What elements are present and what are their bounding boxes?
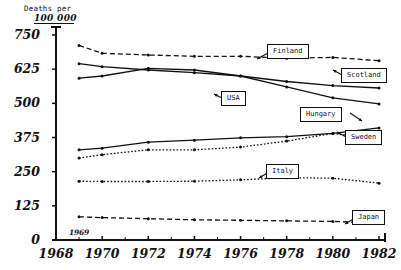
series-label-finland[interactable]: Finland: [267, 44, 309, 59]
series-scotland: [78, 62, 381, 89]
series-finland: [78, 44, 381, 62]
series-label-hungary[interactable]: Hungary: [300, 107, 342, 122]
series-label-sweden[interactable]: Sweden: [345, 130, 382, 145]
axis-lines: [51, 27, 385, 242]
series-label-japan[interactable]: Japan: [352, 210, 385, 225]
series-label-usa[interactable]: USA: [221, 91, 246, 106]
series-label-scotland[interactable]: Scotland: [341, 68, 387, 83]
series-japan: [78, 215, 381, 224]
leader-hungary: [350, 113, 362, 121]
series-label-italy[interactable]: Italy: [266, 164, 299, 179]
series-italy: [78, 176, 381, 184]
